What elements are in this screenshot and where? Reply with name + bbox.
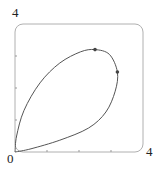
x-max-label: 4 [146, 145, 153, 158]
y-max-label: 4 [12, 6, 19, 19]
curve-marker [116, 70, 120, 74]
curve-marker [93, 48, 97, 52]
origin-label: 0 [7, 152, 14, 165]
plot-canvas [0, 0, 159, 174]
curve [15, 49, 118, 152]
